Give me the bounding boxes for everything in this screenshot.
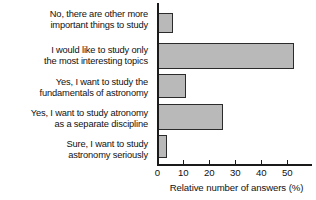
x-tick-label-30: 30 xyxy=(230,167,241,178)
bar-chart: No, there are other more important thing… xyxy=(0,0,316,200)
bar-2 xyxy=(157,74,186,98)
bar-3 xyxy=(157,104,223,130)
bar-0 xyxy=(157,13,173,33)
x-tick-label-10: 10 xyxy=(178,167,189,178)
category-label-column: No, there are other more important thing… xyxy=(0,3,152,165)
x-tick-label-20: 20 xyxy=(204,167,215,178)
category-label-1: I would like to study only the most inte… xyxy=(0,45,148,67)
x-tick-0 xyxy=(157,160,158,165)
x-tick-label-0: 0 xyxy=(155,167,160,178)
x-tick-10 xyxy=(183,160,184,165)
x-axis-title: Relative number of answers (%) xyxy=(157,182,316,193)
x-tick-30 xyxy=(235,160,236,165)
x-tick-label-50: 50 xyxy=(282,167,293,178)
x-tick-40 xyxy=(261,160,262,165)
category-label-0: No, there are other more important thing… xyxy=(0,9,148,31)
plot-area: No, there are other more important thing… xyxy=(0,0,316,200)
category-label-2: Yes, I want to study the fundamentals of… xyxy=(0,77,148,99)
x-tick-50 xyxy=(287,160,288,165)
x-tick-20 xyxy=(209,160,210,165)
x-tick-label-40: 40 xyxy=(256,167,267,178)
category-label-4: Sure, I want to study astronomy seriousl… xyxy=(0,139,148,161)
category-label-3: Yes, I want to study atronomy as a separ… xyxy=(0,108,148,130)
bar-1 xyxy=(157,43,294,69)
y-axis-line xyxy=(157,3,159,165)
